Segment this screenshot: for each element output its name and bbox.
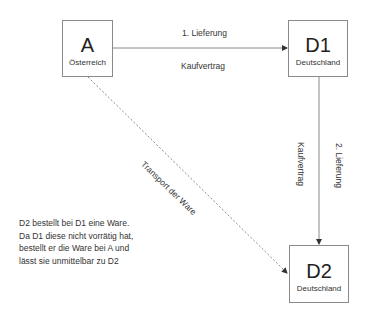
note-line: bestellt er die Ware bei A und <box>19 242 133 255</box>
edge-label-kaufvertrag-vertical: Kaufvertrag <box>296 142 306 186</box>
node-d1-subtitle: Deutschland <box>289 58 347 68</box>
edge-label-kaufvertrag-horizontal: Kaufvertrag <box>181 61 225 71</box>
node-a: A Österreich <box>62 20 113 77</box>
node-d1-title: D1 <box>289 34 347 56</box>
explanation-note: D2 bestellt bei D1 eine Ware. Da D1 dies… <box>19 217 133 267</box>
node-a-subtitle: Österreich <box>63 58 112 68</box>
note-line: D2 bestellt bei D1 eine Ware. <box>19 217 133 230</box>
node-a-title: A <box>63 34 112 56</box>
note-line: Da D1 diese nicht vorrätig hat, <box>19 230 133 243</box>
edge-label-1-lieferung: 1. Lieferung <box>182 28 227 38</box>
node-d2-title: D2 <box>290 260 348 282</box>
node-d2-subtitle: Deutschland <box>290 284 348 294</box>
note-line: lässt sie unmittelbar zu D2 <box>19 255 133 268</box>
node-d2: D2 Deutschland <box>289 245 349 303</box>
edge-label-2-lieferung: 2. Lieferung <box>334 143 344 188</box>
node-d1: D1 Deutschland <box>288 20 348 77</box>
